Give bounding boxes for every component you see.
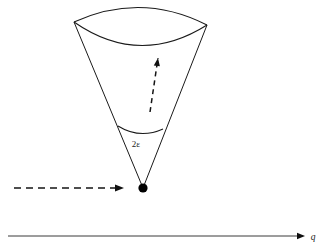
angle-arc [118,126,163,134]
cone-edge-right [143,25,207,188]
q-axis [8,233,305,239]
cone-axis-arrow [150,58,160,112]
cone-angle-label: 2ε [132,139,141,149]
cone-apex-vertex-dot [138,183,147,192]
cone [74,7,207,188]
q-axis-arrow-head [297,233,305,239]
cone-axis-arrow-shaft [150,58,158,112]
figure-canvas: 2ε q [0,0,327,251]
cone-axis-arrow-head [154,58,160,66]
cone-rim-front-arc [74,22,207,46]
cone-edge-left [74,22,143,188]
q-axis-label: q [311,232,316,242]
incoming-beam-arrow [14,184,124,191]
incoming-beam-arrow-head [115,184,124,191]
scattering-cone-figure: 2ε q [0,0,327,251]
cone-rim-back-arc [74,7,207,25]
